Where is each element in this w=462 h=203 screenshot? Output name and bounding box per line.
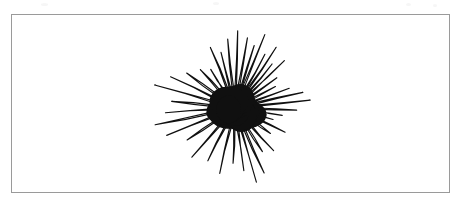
scan-speckle <box>406 3 411 6</box>
figure-frame <box>11 14 450 193</box>
spike <box>249 61 284 95</box>
spike <box>233 128 235 163</box>
spike <box>155 111 215 124</box>
scan-speckle <box>213 2 219 5</box>
spike <box>235 31 238 88</box>
starburst-figure <box>12 15 449 192</box>
page-canvas <box>0 0 462 203</box>
starburst-drawing <box>12 15 449 192</box>
scan-speckle <box>433 4 437 7</box>
scan-speckle <box>41 3 48 6</box>
core-blob-part <box>216 96 241 124</box>
